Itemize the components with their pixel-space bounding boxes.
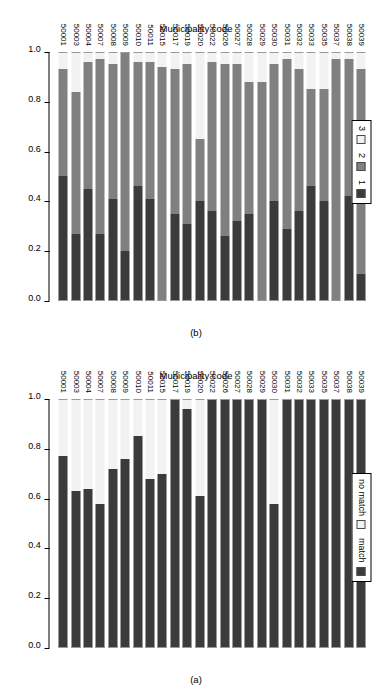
bar-segment xyxy=(257,82,266,301)
bar-row xyxy=(207,399,216,648)
axis-tick-label: 1.0 xyxy=(16,391,52,401)
bar-segment xyxy=(95,504,104,648)
category-label: 50003 xyxy=(71,0,80,50)
bar-segment xyxy=(244,82,253,214)
axis-title-municipality-b: Municipality code xyxy=(136,23,256,34)
axis-tick-label: 0.4 xyxy=(16,193,52,203)
category-label: 50003 xyxy=(71,347,80,397)
bar-segment xyxy=(319,399,328,648)
bar-segment xyxy=(282,59,291,228)
category-label: 50001 xyxy=(58,347,67,397)
axis-title-municipality-a: Municipality code xyxy=(136,370,256,381)
bar-row xyxy=(282,52,291,301)
bar-row xyxy=(83,52,92,301)
bar-segment xyxy=(207,211,216,301)
bar-segment xyxy=(294,52,303,69)
bar-segment xyxy=(120,251,129,301)
category-label: 50007 xyxy=(95,347,104,397)
bar-row xyxy=(306,52,315,301)
white-square-icon xyxy=(357,520,366,529)
legend-label: 3 xyxy=(356,126,366,131)
legend-label: 2 xyxy=(356,153,366,158)
bar-row xyxy=(282,399,291,648)
bar-segment xyxy=(220,64,229,236)
bar-segment xyxy=(356,52,365,69)
bar-row xyxy=(319,52,328,301)
bar-segment xyxy=(170,214,179,301)
bar-segment xyxy=(120,399,129,459)
value-axis-a: 0.00.20.40.60.81.0 xyxy=(48,399,49,648)
bar-row xyxy=(170,52,179,301)
bar-segment xyxy=(319,52,328,89)
bar-segment xyxy=(158,474,167,648)
bar-row xyxy=(331,399,340,648)
category-label: 50008 xyxy=(108,0,117,50)
bar-row xyxy=(319,399,328,648)
axis-tick-label: 1.0 xyxy=(16,44,52,54)
legend-item: 1 xyxy=(356,180,366,198)
bar-segment xyxy=(71,399,80,491)
bar-segment xyxy=(58,176,67,301)
bar-row xyxy=(220,52,229,301)
bar-row xyxy=(120,399,129,648)
light-square-icon xyxy=(357,135,366,144)
bar-row xyxy=(195,399,204,648)
bar-segment xyxy=(58,399,67,456)
category-label: 50009 xyxy=(120,0,129,50)
category-label: 50030 xyxy=(269,0,278,50)
bar-segment xyxy=(331,52,340,59)
category-label: 50033 xyxy=(306,0,315,50)
bar-row xyxy=(331,52,340,301)
bar-segment xyxy=(158,399,167,474)
bar-segment xyxy=(282,399,291,648)
bar-segment xyxy=(195,52,204,139)
bar-row xyxy=(95,52,104,301)
bar-segment xyxy=(282,229,291,301)
category-label: 50001 xyxy=(58,0,67,50)
bar-segment xyxy=(244,52,253,82)
bar-row xyxy=(71,399,80,648)
bar-segment xyxy=(294,399,303,648)
category-label: 50037 xyxy=(331,0,340,50)
bar-segment xyxy=(95,59,104,233)
category-label: 50004 xyxy=(83,0,92,50)
axis-tick-label: 0.0 xyxy=(16,293,52,303)
bar-segment xyxy=(207,62,216,211)
bar-segment xyxy=(306,89,315,186)
bar-segment xyxy=(207,399,216,648)
bar-segment xyxy=(83,52,92,62)
legend-a: no matchmatch xyxy=(351,473,371,582)
bar-row xyxy=(257,52,266,301)
bar-segment xyxy=(158,52,167,67)
legend-item: no match xyxy=(356,479,366,529)
bar-row xyxy=(145,399,154,648)
legend-label: 1 xyxy=(356,180,366,185)
bar-group-a xyxy=(58,399,365,648)
bar-segment xyxy=(133,52,142,62)
bar-segment xyxy=(133,186,142,301)
bar-segment xyxy=(120,52,129,251)
category-label: 50008 xyxy=(108,347,117,397)
bar-group-b xyxy=(58,52,365,301)
bar-segment xyxy=(207,52,216,62)
bar-segment xyxy=(195,201,204,301)
bar-segment xyxy=(331,399,340,648)
bar-segment xyxy=(58,69,67,176)
bar-segment xyxy=(232,52,241,64)
plot-area-b xyxy=(58,52,365,301)
bar-segment xyxy=(158,67,167,301)
bar-segment xyxy=(244,214,253,301)
axis-tick-label: 0.2 xyxy=(16,243,52,253)
category-label: 50039 xyxy=(356,347,365,397)
bar-segment xyxy=(95,399,104,504)
legend-label: match xyxy=(356,538,366,563)
category-label: 50032 xyxy=(294,347,303,397)
legend-b: 321 xyxy=(351,120,371,204)
bar-segment xyxy=(182,224,191,301)
bar-row xyxy=(257,399,266,648)
figure-root: 5003950038500375003550033500325003150030… xyxy=(0,0,391,694)
bar-segment xyxy=(257,399,266,648)
category-label: 50029 xyxy=(257,347,266,397)
bar-row xyxy=(83,399,92,648)
bar-segment xyxy=(306,186,315,301)
